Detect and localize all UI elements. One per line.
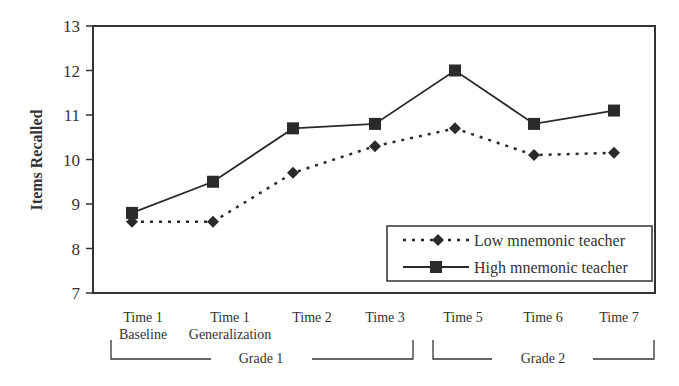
diamond-marker-icon [608,147,620,159]
x-tick-label: Time 1 [210,310,250,325]
grade-1-bracket: Grade 1 [111,340,413,366]
y-tick-label: 8 [72,240,81,259]
diamond-marker-icon [369,140,381,152]
x-tick-label: Time 3 [365,310,405,325]
diamond-marker-icon [528,149,540,161]
diamond-marker-icon [207,216,219,228]
grade-2-bracket: Grade 2 [433,340,654,366]
series-layer [126,65,620,228]
y-tick-label: 7 [72,284,81,303]
square-marker-icon [449,65,461,77]
y-tick-label: 11 [64,106,80,125]
x-tick-label: Time 7 [599,310,639,325]
y-tick-label: 10 [63,151,80,170]
diamond-marker-icon [449,122,461,134]
grade-2-label: Grade 2 [521,351,566,366]
square-marker-icon [430,261,442,273]
diamond-marker-icon [287,167,299,179]
y-tick-label: 13 [63,17,80,36]
y-axis: 13 12 11 10 9 8 7 Items Recalled [28,17,93,303]
square-marker-icon [608,105,620,117]
x-tick-sublabel: Generalization [189,327,271,342]
y-tick-label: 12 [63,62,80,81]
line-chart: 13 12 11 10 9 8 7 Items Recalled Low mne… [0,0,679,386]
square-marker-icon [287,122,299,134]
y-axis-title: Items Recalled [28,109,45,210]
x-tick-label: Time 6 [523,310,563,325]
high-mnemonic-line [132,71,614,213]
x-tick-sublabel: Baseline [119,327,167,342]
legend-label-low: Low mnemonic teacher [474,232,626,249]
x-tick-label: Time 5 [443,310,483,325]
legend-label-high: High mnemonic teacher [474,259,628,277]
square-marker-icon [126,207,138,219]
grade-1-label: Grade 1 [239,351,284,366]
square-marker-icon [207,176,219,188]
square-marker-icon [528,118,540,130]
x-tick-label: Time 1 [123,310,163,325]
square-marker-icon [369,118,381,130]
x-axis-labels: Time 1 Baseline Time 1 Generalization Ti… [119,310,639,342]
x-tick-label: Time 2 [292,310,332,325]
y-tick-label: 9 [72,195,81,214]
legend: Low mnemonic teacher High mnemonic teach… [387,226,652,281]
